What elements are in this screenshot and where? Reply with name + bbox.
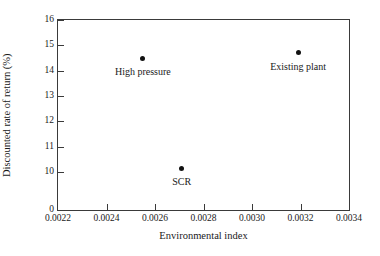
x-tick-mark [301,204,302,210]
y-tick-mark [58,20,64,21]
x-tick-label: 0.0028 [190,214,216,224]
x-tick-mark [155,204,156,210]
y-tick-mark [58,45,64,46]
x-tick-label: 0.0032 [287,214,313,224]
data-point-label: Existing plant [270,62,326,72]
x-tick-label: 0.0024 [93,214,119,224]
y-axis-title: Discounted rate of return (%) [0,19,14,211]
x-tick-mark [204,204,205,210]
data-point [296,50,301,55]
y-tick-label: 15 [45,41,55,51]
y-tick-label: 10 [45,167,55,177]
y-tick-label: 14 [45,66,55,76]
x-tick-label: 0.0030 [239,214,265,224]
y-tick-label: 12 [45,117,55,127]
data-point [140,56,145,61]
y-tick-mark [58,172,64,173]
y-tick-label: 11 [45,142,54,152]
plot-area: 0101112131415160.00220.00240.00260.00280… [57,19,350,211]
y-tick-mark [58,121,64,122]
x-tick-label: 0.0034 [336,214,362,224]
data-point-label: High pressure [115,67,171,77]
scatter-chart-figure: Discounted rate of return (%) 0101112131… [0,0,380,256]
y-tick-mark [58,147,64,148]
data-point-label: SCR [172,177,191,187]
x-axis-title: Environmental index [57,231,350,242]
y-tick-label: 13 [45,91,55,101]
y-tick-mark [58,71,64,72]
x-tick-mark [107,204,108,210]
x-tick-label: 0.0022 [45,214,71,224]
x-tick-label: 0.0026 [142,214,168,224]
data-point [179,166,184,171]
y-axis-title-text: Discounted rate of return (%) [2,53,13,177]
y-tick-label: 16 [45,15,55,25]
x-tick-mark [252,204,253,210]
y-tick-mark [58,96,64,97]
